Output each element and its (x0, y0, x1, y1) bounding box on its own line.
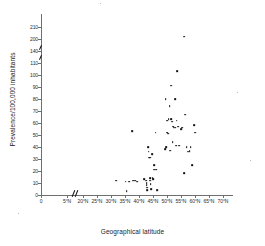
y-axis-tick (38, 123, 41, 124)
data-point (128, 181, 130, 183)
x-axis-tick-label: 40°N (134, 199, 145, 204)
data-point (157, 189, 159, 191)
data-point (147, 146, 149, 148)
y-axis-line (41, 14, 42, 195)
scatter-plot-figure: 0102030405060708090100110140200210 05°N2… (0, 0, 265, 246)
y-axis-tick-label: 10 (33, 181, 38, 186)
data-point (167, 133, 169, 135)
data-point (126, 191, 128, 193)
scan-artifact (100, 3, 101, 4)
data-point (131, 131, 133, 133)
data-point (193, 125, 195, 127)
data-point (181, 127, 183, 129)
data-point (186, 146, 188, 148)
data-point (125, 181, 127, 183)
y-axis-tick-label: 40 (33, 145, 38, 150)
y-axis-tick-label: 210 (30, 25, 38, 30)
data-point (150, 183, 152, 185)
data-point (149, 157, 151, 159)
data-point (189, 150, 191, 152)
plot-surface (41, 14, 233, 195)
data-point (166, 146, 168, 148)
data-point (171, 121, 173, 123)
y-axis-tick (38, 159, 41, 160)
data-point (175, 145, 177, 147)
y-axis-tick (38, 63, 41, 64)
data-point (165, 98, 167, 100)
y-axis-tick-label: 20 (33, 169, 38, 174)
y-axis-tick (38, 99, 41, 100)
data-point (174, 98, 176, 100)
x-axis-tick-label: 70°N (218, 199, 229, 204)
data-point (151, 153, 153, 155)
x-axis-tick-label: 65°N (204, 199, 215, 204)
x-axis-line (41, 195, 233, 196)
data-point (171, 85, 173, 87)
scan-artifact (250, 160, 251, 161)
y-axis-title-wrap: Prevalence/100,000 inhabitants (0, 0, 16, 246)
y-axis-tick (38, 87, 41, 88)
x-axis-tick-labels: 05°N20°N25°N30°N35°N40°N45°N50°N55°N60°N… (41, 199, 233, 209)
y-axis-tick-label: 100 (30, 73, 38, 78)
data-point (148, 151, 150, 153)
x-axis-title: Geographical latitude (0, 228, 265, 235)
y-axis-tick-label: 0 (35, 193, 38, 198)
y-axis-tick (38, 51, 41, 52)
y-axis-tick (38, 111, 41, 112)
y-axis-tick (38, 147, 41, 148)
data-point (190, 146, 192, 148)
scan-artifact (237, 92, 238, 93)
x-axis-tick-label: 55°N (176, 199, 187, 204)
data-point (178, 145, 180, 147)
data-point (169, 150, 171, 152)
data-point (155, 132, 157, 134)
y-axis-tick (38, 183, 41, 184)
x-axis-tick-label: 20°N (78, 199, 89, 204)
y-axis-title: Prevalence/100,000 inhabitants (9, 35, 16, 165)
y-axis-tick-label: 60 (33, 121, 38, 126)
data-point (150, 180, 152, 182)
data-point (147, 189, 149, 191)
y-axis-tick-label: 80 (33, 97, 38, 102)
data-point (152, 179, 154, 181)
scan-artifact (18, 213, 19, 214)
y-axis-tick (38, 135, 41, 136)
data-point (172, 141, 174, 143)
y-axis-tick-label: 90 (33, 85, 38, 90)
data-point (177, 71, 179, 73)
x-axis-tick-label: 30°N (106, 199, 117, 204)
x-axis-tick-label: 0 (40, 199, 43, 204)
x-axis-tick-label: 25°N (92, 199, 103, 204)
y-axis-tick (38, 75, 41, 76)
data-point (164, 149, 166, 151)
data-point (136, 181, 138, 183)
y-axis-tick (38, 39, 41, 40)
y-axis-tick (38, 27, 41, 28)
data-point (169, 105, 171, 107)
y-axis-tick (38, 171, 41, 172)
data-point (150, 188, 152, 190)
x-axis-tick-label: 45°N (148, 199, 159, 204)
y-axis-tick-label: 110 (30, 61, 38, 66)
y-axis-tick-label: 70 (33, 109, 38, 114)
data-point (194, 132, 196, 134)
x-axis-tick-label: 50°N (162, 199, 173, 204)
plot-area (41, 14, 233, 195)
data-point (184, 173, 186, 175)
y-axis-tick-label: 200 (30, 37, 38, 42)
data-point (185, 114, 187, 116)
x-axis-tick-label: 5°N (63, 199, 71, 204)
data-point (175, 127, 177, 129)
y-axis-tick-label: 30 (33, 157, 38, 162)
x-axis-tick-label: 35°N (120, 199, 131, 204)
y-axis-tick-label: 140 (30, 49, 38, 54)
data-point (153, 164, 155, 166)
data-point (176, 120, 178, 122)
data-point (156, 169, 158, 171)
data-point (115, 180, 117, 182)
data-point (191, 164, 193, 166)
data-point (177, 126, 179, 128)
data-point (183, 36, 185, 38)
y-axis-tick-label: 50 (33, 133, 38, 138)
x-axis-tick-label: 60°N (190, 199, 201, 204)
